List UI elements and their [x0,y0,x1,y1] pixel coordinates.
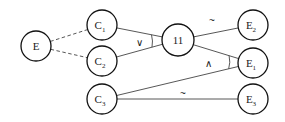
and-angle-arc [229,56,230,69]
node-e: E [21,31,51,61]
and-operator-symbol: ∧ [205,58,212,69]
node-c2: C2 [87,46,117,76]
node-label: E [33,40,40,52]
node-label: 11 [173,34,184,46]
edge-n11-e1 [193,45,238,59]
edge-c1-n11 [117,28,163,37]
negation-label: ~ [180,88,186,99]
or-angle-arc [152,35,153,47]
or-operator-symbol: ∨ [136,37,143,48]
node-e2: E2 [238,10,268,40]
edge-c3-e1 [117,66,239,95]
node-e1: E1 [238,48,268,78]
node-e3: E3 [238,84,268,114]
diagram-canvas: ∨∧~~EC1C2C311E2E1E3 [0,0,285,122]
node-n11: 11 [162,24,194,56]
edge-e-c2 [51,49,88,57]
node-c3: C3 [87,84,117,114]
edge-n11-e2 [194,28,239,37]
edge-e-c1 [50,30,87,42]
node-c1: C1 [87,10,117,40]
logic-tree-diagram: ∨∧~~EC1C2C311E2E1E3 [0,0,285,122]
negation-label: ~ [209,15,215,26]
